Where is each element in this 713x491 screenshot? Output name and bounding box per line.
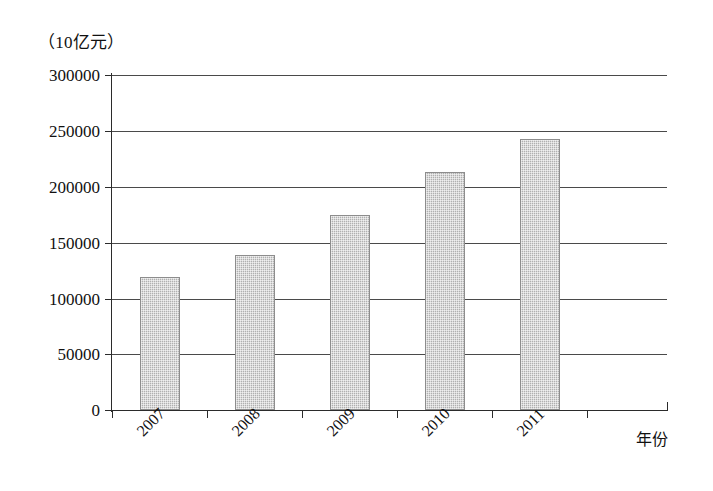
y-tick-label-250000: 250000: [0, 123, 100, 140]
x-tick-mark-4: [492, 410, 493, 418]
y-tick-label-300000: 300000: [0, 67, 100, 84]
plot-area: [112, 75, 667, 410]
x-tick-mark-3: [397, 410, 398, 418]
gridline-250000: [112, 131, 667, 132]
bar-2010: [425, 172, 465, 410]
x-tick-mark-1: [207, 410, 208, 418]
gridline-150000: [112, 243, 667, 244]
y-tick-label-150000: 150000: [0, 235, 100, 252]
gridline-200000: [112, 187, 667, 188]
x-axis-line: [111, 410, 668, 411]
gridline-300000: [112, 75, 667, 76]
y-tick-label-0: 0: [0, 402, 100, 419]
x-axis-title: 年份: [636, 432, 668, 448]
y-axis-tick-labels: 300000 250000 200000 150000 100000 50000…: [0, 0, 100, 491]
bar-2011: [520, 139, 560, 410]
bar-2009: [330, 215, 370, 410]
x-tick-mark-5: [587, 410, 588, 418]
y-tick-label-50000: 50000: [0, 346, 100, 363]
x-tick-mark-0: [112, 410, 113, 418]
gridline-50000: [112, 354, 667, 355]
x-tick-mark-2: [302, 410, 303, 418]
gridline-100000: [112, 299, 667, 300]
y-tick-label-200000: 200000: [0, 179, 100, 196]
x-axis-end-cap: [667, 402, 668, 411]
bar-2007: [140, 277, 180, 410]
bar-2008: [235, 255, 275, 410]
bar-chart: （10亿元） 300000 250000 200000 150000 10000…: [0, 0, 713, 491]
y-tick-label-100000: 100000: [0, 291, 100, 308]
